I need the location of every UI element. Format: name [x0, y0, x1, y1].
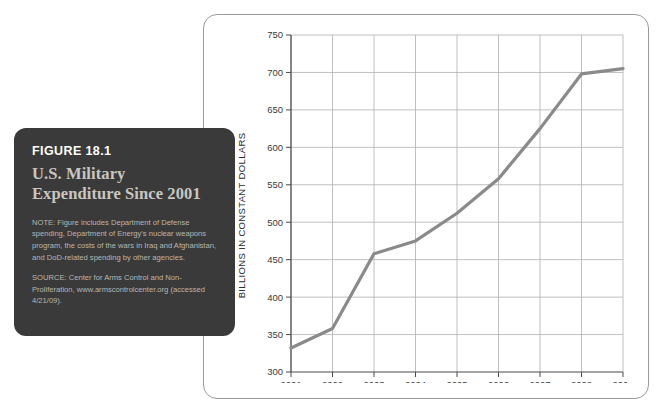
y-tick-label: 300: [267, 366, 283, 377]
x-tick-label: 2007: [529, 379, 550, 383]
y-tick-label: 650: [267, 104, 283, 115]
figure-title: U.S. Military Expenditure Since 2001: [32, 164, 217, 205]
line-chart-svg: 300350400450500550600650700750 200120022…: [255, 28, 627, 383]
y-tick-label: 700: [267, 67, 283, 78]
x-tick-label: 2002: [322, 379, 343, 383]
x-axis-tick-labels: 200120022003200420052006200720082009: [280, 379, 627, 383]
x-tick-label: 2003: [363, 379, 384, 383]
chart-plot-area: 300350400450500550600650700750 200120022…: [255, 28, 627, 383]
y-tick-label: 600: [267, 142, 283, 153]
x-tick-label: 2009: [612, 379, 627, 383]
y-tick-label: 500: [267, 217, 283, 228]
y-axis-title-label: BILLIONS IN CONSTANT DOLLARS: [237, 132, 248, 298]
x-tick-label: 2004: [405, 379, 426, 383]
y-tick-label: 550: [267, 179, 283, 190]
y-axis-tick-marks: [286, 35, 291, 372]
figure-note: NOTE: Figure includes Department of Defe…: [32, 217, 217, 263]
x-axis-tick-marks: [291, 372, 623, 377]
y-tick-label: 400: [267, 292, 283, 303]
y-tick-label: 350: [267, 329, 283, 340]
x-tick-label: 2008: [571, 379, 592, 383]
y-tick-label: 750: [267, 29, 283, 40]
figure-source: SOURCE: Center for Arms Control and Non-…: [32, 272, 217, 307]
figure-caption-card: FIGURE 18.1 U.S. Military Expenditure Si…: [14, 128, 235, 336]
y-tick-label: 450: [267, 254, 283, 265]
x-tick-label: 2001: [280, 379, 301, 383]
x-tick-label: 2006: [488, 379, 509, 383]
y-axis-tick-labels: 300350400450500550600650700750: [267, 29, 283, 377]
figure-number: FIGURE 18.1: [32, 144, 217, 158]
x-tick-label: 2005: [446, 379, 467, 383]
